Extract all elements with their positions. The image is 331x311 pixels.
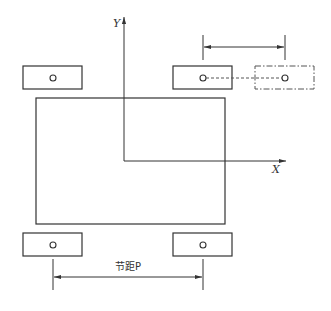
y-axis: Y [113,17,124,161]
hole-icon [50,242,56,248]
top-dimension [203,35,285,60]
hole-icon [200,242,206,248]
x-axis: X [124,161,286,176]
hole-icon [50,75,56,81]
pitch-diagram: Y X 节距P [0,0,331,311]
y-axis-label: Y [113,17,122,30]
pad-bottom-left [23,233,82,256]
hole-icon [200,75,206,81]
hole-icon [282,75,288,81]
x-axis-label: X [271,163,281,176]
pad-top-left [23,66,82,89]
pitch-label: 节距P [115,261,141,272]
pitch-dimension: 节距P [53,259,203,290]
pad-bottom-right [173,233,232,256]
